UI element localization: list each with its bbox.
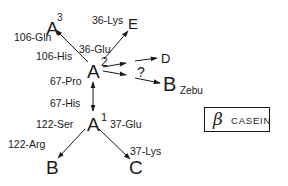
arrow-layer	[0, 0, 288, 186]
node-a1-superscript: 1	[101, 112, 107, 123]
node-b-zebu: B	[163, 74, 176, 94]
arrow-a1-to-c	[99, 129, 130, 159]
label-122-arg: 122-Arg	[8, 139, 45, 150]
arrow-a2-to-bzebu-1	[103, 71, 126, 75]
label-question: ?	[137, 65, 145, 79]
node-a3-superscript: 3	[57, 13, 63, 23]
node-e: E	[128, 16, 138, 31]
label-36-lys: 36-Lys	[92, 15, 123, 26]
node-a2: A	[87, 62, 100, 81]
node-b: B	[46, 158, 59, 177]
node-a1: A	[87, 115, 100, 134]
beta-casein-box: β CASEIN	[204, 107, 270, 132]
label-36-glu: 36-Glu	[79, 44, 111, 55]
node-c: C	[129, 158, 143, 177]
arrow-a1-to-b	[58, 129, 85, 158]
node-d: D	[161, 52, 170, 65]
beta-symbol: β	[213, 111, 223, 128]
node-a2-superscript: 2	[101, 56, 108, 68]
label-122-ser: 122-Ser	[36, 119, 73, 130]
arrow-a2-to-d-2	[135, 58, 157, 61]
casein-label: CASEIN	[231, 116, 271, 126]
label-37-lys: 37-Lys	[130, 146, 161, 157]
label-106-his: 106-His	[36, 51, 72, 62]
label-37-glu: 37-Glu	[110, 119, 142, 130]
node-b-zebu-subscript: Zebu	[180, 86, 203, 96]
label-67-pro: 67-Pro	[50, 76, 82, 87]
label-67-his: 67-His	[50, 98, 80, 109]
label-106-gln: 106-Gln	[14, 32, 51, 43]
